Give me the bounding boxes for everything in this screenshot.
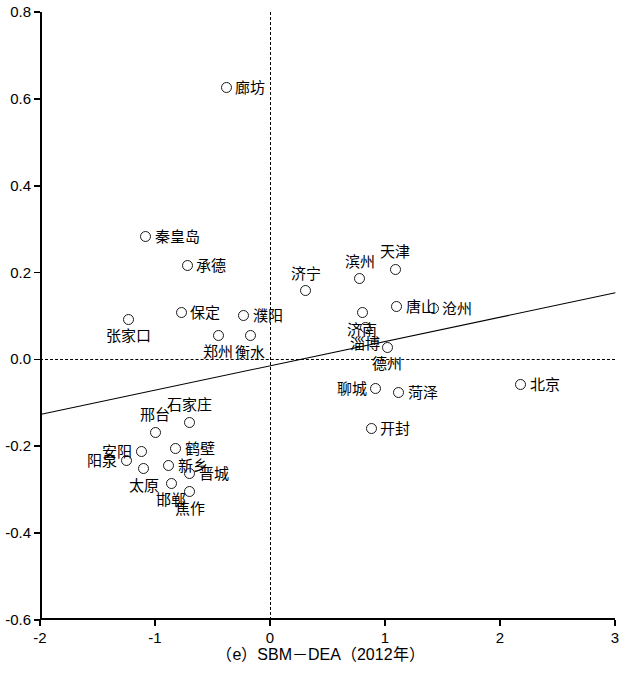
data-point [221,82,232,93]
horizontal-reference-line [40,359,615,360]
data-point-label: 秦皇岛 [155,229,200,244]
x-tick-mark [384,620,386,626]
data-point [184,417,195,428]
data-point [170,443,181,454]
data-point-label: 承德 [196,258,226,273]
data-point-label: 聊城 [337,381,367,396]
data-point [354,273,365,284]
data-point [428,303,439,314]
y-tick-mark [34,185,40,187]
x-axis-title: （e）SBM－DEA（2012年） [0,641,641,665]
y-tick-mark [34,272,40,274]
data-point-label: 石家庄 [167,397,212,412]
data-point [390,264,401,275]
data-point [182,260,193,271]
data-point [366,423,377,434]
data-point [176,307,187,318]
y-tick-label: 0.0 [0,350,31,367]
data-point-label: 焦作 [175,501,205,516]
data-point-label: 滨州 [345,254,375,269]
y-tick-label: 0.4 [0,177,31,194]
data-point-label: 开封 [380,421,410,436]
data-point-label: 太原 [129,478,159,493]
data-point [393,387,404,398]
trend-line [40,292,615,415]
data-point-label: 菏泽 [408,385,438,400]
data-point [357,307,368,318]
data-point-label: 沧州 [442,301,472,316]
data-point-label: 济宁 [291,266,321,281]
x-tick-mark [154,620,156,626]
data-point [123,314,134,325]
data-point [515,379,526,390]
x-tick-mark [499,620,501,626]
data-point-label: 北京 [530,377,560,392]
y-tick-label: -0.6 [0,611,31,628]
data-point-label: 保定 [190,305,220,320]
data-point [238,310,249,321]
plot-area: -0.6-0.4-0.20.00.20.40.60.8-2-10123廊坊秦皇岛… [40,12,615,620]
data-point [150,427,161,438]
y-tick-label: 0.2 [0,264,31,281]
data-point [391,301,402,312]
y-axis-line [40,12,42,620]
x-tick-mark [269,620,271,626]
y-tick-mark [34,532,40,534]
data-point-label: 张家口 [106,328,151,343]
x-axis-line [40,618,615,620]
data-point-label: 晋城 [199,466,229,481]
data-point [138,463,149,474]
y-tick-mark [34,11,40,13]
data-point [245,330,256,341]
data-point-label: 鹤壁 [185,441,215,456]
data-point-label: 濮阳 [253,308,283,323]
scatter-chart: -0.6-0.4-0.20.00.20.40.60.8-2-10123廊坊秦皇岛… [0,0,641,674]
x-tick-mark [614,620,616,626]
y-tick-label: 0.6 [0,90,31,107]
y-tick-mark [34,98,40,100]
data-point-label: 廊坊 [235,80,265,95]
data-point-label: 邢台 [140,407,170,422]
data-point [382,342,393,353]
data-point [184,468,195,479]
data-point [163,460,174,471]
data-point [300,285,311,296]
data-point-label: 阳泉 [87,453,117,468]
data-point [140,231,151,242]
data-point [360,322,371,333]
data-point [184,486,195,497]
y-tick-label: -0.4 [0,524,31,541]
data-point-label: 郑州 [203,344,233,359]
y-tick-mark [34,445,40,447]
y-tick-label: 0.8 [0,3,31,20]
data-point-label: 天津 [380,244,410,259]
data-point-label: 衡水 [235,345,265,360]
data-point [370,383,381,394]
data-point-label: 淄博 [350,336,380,351]
data-point [166,478,177,489]
data-point [213,330,224,341]
data-point-label: 德州 [372,356,402,371]
data-point [121,455,132,466]
y-tick-label: -0.2 [0,437,31,454]
data-point [136,446,147,457]
x-tick-mark [39,620,41,626]
